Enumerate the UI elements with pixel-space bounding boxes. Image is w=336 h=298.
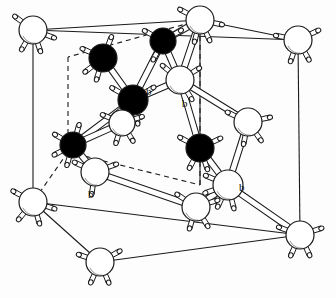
axis-label-b: b	[239, 182, 245, 193]
atom-sphere-light	[234, 108, 262, 136]
atom-sphere-light	[109, 110, 135, 136]
atom-sphere-light	[182, 193, 210, 221]
axis-label-b: b	[182, 98, 188, 109]
atom-c-br-front	[276, 221, 325, 259]
atom-d-left-mid	[51, 122, 86, 168]
crystal-structure-canvas	[0, 0, 336, 298]
atom-sphere-dark	[60, 132, 86, 158]
atom-d-back-r	[141, 27, 184, 63]
cell-edge	[298, 40, 300, 235]
atom-sphere-light	[81, 158, 109, 186]
cell-edge	[100, 235, 300, 262]
atom-spheres	[10, 6, 325, 286]
atom-sphere-light	[286, 221, 314, 249]
atom-c-bl-front	[10, 188, 58, 227]
atom-sphere-light	[19, 188, 47, 216]
axis-label-b: b	[146, 86, 152, 97]
atom-sphere-light	[166, 66, 194, 94]
atom-c-tr-top	[273, 26, 322, 64]
bond-stick	[104, 173, 186, 207]
atom-sphere-light	[284, 26, 312, 54]
atom-w-upper-r	[159, 62, 202, 102]
atom-c-bottom-fr	[76, 248, 123, 286]
atom-w-right-up	[224, 108, 273, 147]
atom-sphere-light	[186, 6, 214, 34]
atom-sphere-light	[19, 16, 47, 44]
atom-sphere-light	[86, 248, 114, 276]
axis-label-b: b	[88, 189, 94, 200]
atom-sphere-dark	[186, 134, 214, 162]
atom-sphere-dark	[89, 44, 117, 72]
atom-sphere-dark	[150, 28, 176, 54]
crystal-structure-figure: bbbb	[0, 0, 336, 298]
atom-c-tl-top	[12, 13, 58, 54]
bond-stick	[236, 189, 293, 231]
cell-edge	[33, 20, 200, 30]
